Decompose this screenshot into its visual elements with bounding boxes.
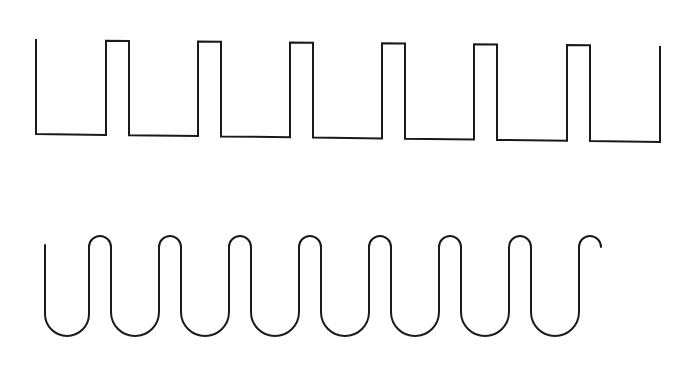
waveform-diagram: [0, 0, 700, 371]
square-wave: [36, 39, 660, 142]
rounded-wave: [45, 236, 601, 336]
